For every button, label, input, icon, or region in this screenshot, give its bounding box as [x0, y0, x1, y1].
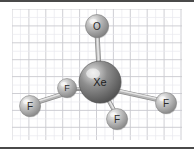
atom-xe: Xe — [79, 61, 122, 104]
atom-f-back-label: F — [64, 83, 70, 93]
atom-o-label: O — [93, 21, 101, 32]
atom-f-right-label: F — [163, 98, 169, 109]
atom-f-left-label: F — [27, 101, 33, 112]
molecule-canvas: OXeFFFF — [0, 0, 194, 150]
molecule-diagram: OXeFFFF — [0, 0, 194, 150]
atom-f-front-label: F — [114, 114, 120, 125]
atom-xe-label: Xe — [93, 76, 106, 88]
